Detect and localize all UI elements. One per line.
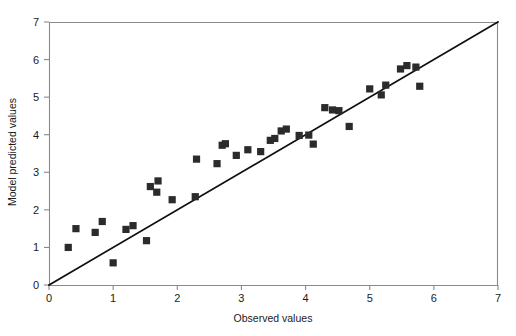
data-point-marker — [310, 141, 317, 148]
scatter-plot-figure: 0123456701234567 Observed values Model p… — [0, 0, 516, 336]
x-tick-label: 1 — [110, 292, 116, 304]
y-tick-label: 3 — [33, 166, 39, 178]
x-tick-label: 7 — [495, 292, 501, 304]
data-point-marker — [143, 237, 150, 244]
data-point-marker — [233, 152, 240, 159]
identity-reference-line — [49, 22, 498, 285]
data-point-marker — [169, 196, 176, 203]
data-points — [65, 62, 424, 266]
data-point-marker — [65, 244, 72, 251]
data-point-marker — [244, 146, 251, 153]
data-point-marker — [416, 83, 423, 90]
data-point-marker — [147, 183, 154, 190]
data-point-marker — [403, 62, 410, 69]
x-tick-label: 3 — [238, 292, 244, 304]
tick-labels: 0123456701234567 — [33, 16, 501, 304]
y-tick-label: 7 — [33, 16, 39, 28]
y-tick-label: 1 — [33, 241, 39, 253]
x-tick-label: 6 — [431, 292, 437, 304]
x-tick-label: 4 — [303, 292, 309, 304]
data-point-marker — [305, 131, 312, 138]
data-point-marker — [99, 218, 106, 225]
x-tick-label: 5 — [367, 292, 373, 304]
data-point-marker — [321, 104, 328, 111]
data-point-marker — [129, 222, 136, 229]
y-tick-label: 4 — [33, 129, 39, 141]
x-tick-label: 2 — [174, 292, 180, 304]
data-point-marker — [72, 225, 79, 232]
data-point-marker — [222, 140, 229, 147]
y-tick-label: 2 — [33, 204, 39, 216]
data-point-marker — [110, 259, 117, 266]
data-point-marker — [397, 65, 404, 72]
data-point-marker — [412, 63, 419, 70]
data-point-marker — [378, 91, 385, 98]
data-point-marker — [122, 226, 129, 233]
x-tick-label: 0 — [46, 292, 52, 304]
data-point-marker — [153, 189, 160, 196]
data-point-marker — [192, 193, 199, 200]
data-point-marker — [213, 160, 220, 167]
y-tick-label: 0 — [33, 279, 39, 291]
data-point-marker — [193, 156, 200, 163]
data-point-marker — [271, 135, 278, 142]
data-point-marker — [154, 177, 161, 184]
data-point-marker — [335, 107, 342, 114]
data-point-marker — [329, 106, 336, 113]
data-point-marker — [296, 132, 303, 139]
x-axis-title: Observed values — [234, 312, 313, 324]
data-point-marker — [92, 229, 99, 236]
data-point-marker — [366, 85, 373, 92]
y-axis-title: Model predicted values — [6, 98, 18, 206]
data-point-marker — [382, 82, 389, 89]
data-point-marker — [346, 123, 353, 130]
y-tick-label: 5 — [33, 91, 39, 103]
plot-canvas: 0123456701234567 Observed values Model p… — [0, 0, 516, 336]
data-point-marker — [257, 148, 264, 155]
y-tick-label: 6 — [33, 54, 39, 66]
data-point-marker — [283, 125, 290, 132]
